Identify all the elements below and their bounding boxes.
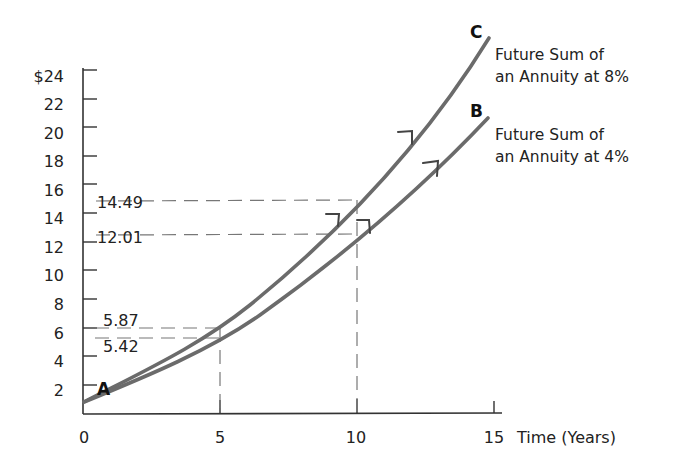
- curve-4-percent: [84, 118, 488, 402]
- annotation-labels: 14.49 12.01 5.87 5.42: [97, 193, 143, 356]
- y-tick-label: $24: [33, 67, 64, 86]
- legend-4-line1: Future Sum of: [495, 126, 604, 144]
- y-tick-label: 10: [44, 266, 64, 285]
- arrow-icon: [326, 214, 339, 226]
- annotation-5-87: 5.87: [103, 311, 139, 330]
- legend-8-line2: an Annuity at 8%: [495, 68, 629, 86]
- annotation-14-49: 14.49: [97, 193, 143, 212]
- annotation-12-01: 12.01: [97, 228, 143, 247]
- y-tick-label: 14: [44, 209, 64, 228]
- x-tick-label: 5: [215, 428, 225, 447]
- y-tick-label: 6: [54, 324, 64, 343]
- x-tick-labels: 0 5 10 15: [79, 428, 504, 447]
- legend-8-percent: Future Sum of an Annuity at 8%: [495, 46, 629, 86]
- x-tick-label: 10: [346, 428, 366, 447]
- legend-4-line2: an Annuity at 4%: [495, 148, 629, 166]
- point-label-a: A: [97, 379, 111, 399]
- x-tick-label: 15: [484, 428, 504, 447]
- curves: [84, 38, 489, 402]
- y-tick-label: 12: [44, 238, 64, 257]
- x-axis: [83, 413, 502, 414]
- arrow-icon: [398, 131, 412, 144]
- y-tick-label: 8: [54, 295, 64, 314]
- y-tick-label: 4: [54, 352, 64, 371]
- x-axis-title: Time (Years): [516, 428, 616, 447]
- annuity-chart: $24 22 20 18 16 14 12 10 8 6 4 2 0 5 10 …: [0, 0, 679, 476]
- point-label-c: C: [470, 22, 482, 42]
- y-tick-label: 20: [44, 124, 64, 143]
- y-tick-label: 16: [44, 181, 64, 200]
- y-tick-label: 2: [54, 381, 64, 400]
- curve-8-percent: [84, 38, 489, 402]
- annotation-5-42: 5.42: [103, 337, 139, 356]
- y-tick-labels: $24 22 20 18 16 14 12 10 8 6 4 2: [33, 67, 64, 400]
- y-tick-label: 22: [44, 95, 64, 114]
- x-tick-label: 0: [79, 428, 89, 447]
- y-tick-label: 18: [44, 152, 64, 171]
- legend-8-line1: Future Sum of: [495, 46, 604, 64]
- y-ticks: [83, 70, 97, 385]
- legend-4-percent: Future Sum of an Annuity at 4%: [495, 126, 629, 166]
- axes: [83, 68, 502, 414]
- point-label-b: B: [470, 101, 483, 121]
